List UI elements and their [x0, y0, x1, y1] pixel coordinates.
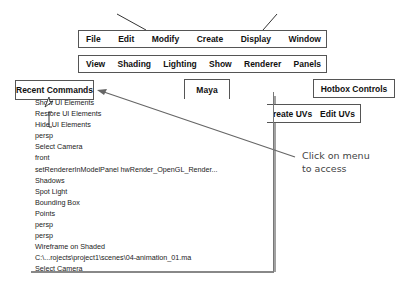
callout-line-2: to access [302, 162, 370, 175]
recent-commands-label: Recent Commands [16, 85, 93, 95]
menu-create-uvs[interactable]: reate UVs [273, 109, 312, 119]
list-item[interactable]: Points [35, 208, 218, 219]
callout-line-1: Click on menu [302, 149, 370, 162]
menu-display[interactable]: Display [241, 34, 271, 44]
hotbox-controls-button[interactable]: Hotbox Controls [313, 79, 395, 98]
list-item[interactable]: Hide UI Elements [35, 119, 218, 130]
menu-view[interactable]: View [86, 59, 105, 69]
menu-window[interactable]: Window [288, 34, 321, 44]
list-item[interactable]: persp [35, 219, 218, 230]
list-item[interactable]: Bounding Box [35, 197, 218, 208]
list-item[interactable]: Select Camera [35, 263, 218, 274]
recent-commands-list: Show UI Elements Restore UI Elements Hid… [35, 97, 218, 275]
list-item[interactable]: Wireframe on Shaded [35, 241, 218, 252]
menu-bar-main: File Edit Modify Create Display Window [78, 30, 327, 48]
menu-file[interactable]: File [86, 34, 101, 44]
list-item[interactable]: persp [35, 130, 218, 141]
callout-text: Click on menu to access [302, 149, 370, 175]
list-item[interactable]: Shadows [35, 175, 218, 186]
hotbox-controls-label: Hotbox Controls [321, 84, 388, 94]
list-item[interactable]: Spot Light [35, 186, 218, 197]
list-item[interactable]: setRendererInModelPanel hwRender_OpenGL_… [35, 164, 218, 175]
recent-commands-popup: Show UI Elements Restore UI Elements Hid… [31, 92, 274, 273]
menu-renderer[interactable]: Renderer [244, 59, 281, 69]
menu-panels[interactable]: Panels [294, 59, 321, 69]
menu-shading[interactable]: Shading [117, 59, 151, 69]
menu-show[interactable]: Show [209, 59, 232, 69]
menu-edit[interactable]: Edit [118, 34, 134, 44]
list-item[interactable]: C:\...rojects\project1\scenes\04-animati… [35, 252, 218, 263]
mouse-cursor-icon [44, 96, 54, 108]
list-item[interactable]: Select Camera [35, 141, 218, 152]
menu-modify[interactable]: Modify [152, 34, 179, 44]
recent-commands-button[interactable]: Recent Commands [15, 80, 94, 100]
menu-lighting[interactable]: Lighting [163, 59, 197, 69]
list-item[interactable]: front [35, 152, 218, 163]
menu-edit-uvs[interactable]: Edit UVs [320, 109, 355, 119]
menu-create[interactable]: Create [197, 34, 223, 44]
uv-menu-bar: reate UVs Edit UVs [267, 104, 361, 123]
menu-bar-panel: View Shading Lighting Show Renderer Pane… [78, 55, 327, 73]
list-item[interactable]: persp [35, 230, 218, 241]
list-item[interactable]: Restore UI Elements [35, 108, 218, 119]
